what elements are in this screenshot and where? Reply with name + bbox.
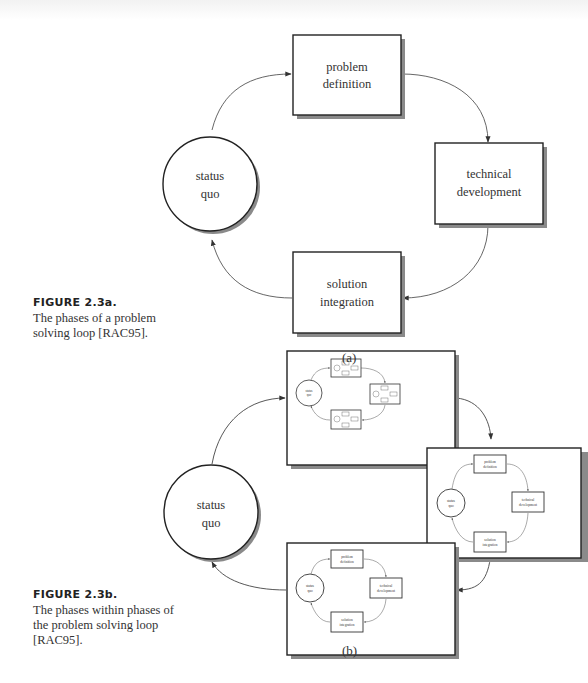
arrow-technical-to-solution bbox=[403, 225, 488, 298]
solution-integration-line1: solution bbox=[327, 277, 368, 291]
svg-text:problem: problem bbox=[484, 460, 496, 464]
svg-text:status: status bbox=[306, 584, 315, 588]
svg-text:problem: problem bbox=[341, 555, 353, 559]
arrow-problem-to-technical bbox=[402, 74, 488, 142]
svg-text:development: development bbox=[519, 503, 537, 507]
problem-definition-line2: definition bbox=[323, 77, 372, 91]
svg-text:definition: definition bbox=[340, 560, 354, 564]
svg-text:solution: solution bbox=[484, 538, 496, 542]
figure-diagrams: status quo problem definition technical … bbox=[0, 0, 588, 683]
solution-integration-line2: integration bbox=[320, 295, 375, 309]
status-quo-node-b: status quo bbox=[164, 465, 261, 562]
figure-b-sublabel: (b) bbox=[342, 643, 357, 659]
arrow-solution-to-status bbox=[212, 240, 292, 298]
figure-b-caption: FIGURE 2.3b. The phases within phases of… bbox=[33, 587, 183, 648]
technical-development-line1: technical bbox=[466, 167, 512, 181]
svg-text:solution: solution bbox=[341, 618, 353, 622]
status-quo-line1: status bbox=[196, 169, 225, 183]
technical-development-line2: development bbox=[457, 185, 522, 199]
figure-a-caption-text: The phases of a problem solving loop [RA… bbox=[33, 311, 156, 340]
figure-a-sublabel: (a) bbox=[342, 350, 356, 366]
figure-b-caption-label: FIGURE 2.3b. bbox=[33, 587, 183, 602]
status-quo-line2: quo bbox=[201, 187, 220, 201]
svg-text:technical: technical bbox=[522, 498, 535, 502]
problem-definition-node: problem definition bbox=[293, 35, 405, 119]
figure-a-caption-label: FIGURE 2.3a. bbox=[33, 295, 173, 310]
figure-a-caption: FIGURE 2.3a. The phases of a problem sol… bbox=[33, 295, 173, 341]
svg-text:development: development bbox=[377, 589, 395, 593]
arrow-status-to-problem bbox=[212, 74, 291, 130]
svg-text:integration: integration bbox=[339, 623, 354, 627]
svg-text:definition: definition bbox=[483, 465, 497, 469]
svg-text:quo: quo bbox=[307, 589, 313, 593]
status-quo-node: status quo bbox=[163, 137, 260, 234]
nested-box-solution-integration: status quo problem definition technical … bbox=[287, 543, 459, 659]
svg-text:status: status bbox=[447, 499, 456, 503]
status-quo-b-line2: quo bbox=[202, 516, 221, 530]
svg-text:technical: technical bbox=[380, 584, 393, 588]
figure-b: status quo status quo bbox=[164, 351, 588, 659]
svg-text:integration: integration bbox=[482, 543, 497, 547]
problem-definition-line1: problem bbox=[326, 60, 368, 74]
status-quo-b-line1: status bbox=[197, 498, 226, 512]
figure-a: status quo problem definition technical … bbox=[163, 35, 547, 337]
svg-text:quo: quo bbox=[448, 504, 454, 508]
solution-integration-node: solution integration bbox=[293, 252, 405, 337]
svg-text:quo: quo bbox=[307, 393, 312, 397]
arrow-b-box1-to-box2 bbox=[456, 398, 491, 439]
technical-development-node: technical development bbox=[435, 143, 547, 228]
figure-b-caption-text: The phases within phases of the problem … bbox=[33, 603, 174, 647]
arrow-b-box3-to-status bbox=[212, 562, 286, 590]
arrow-b-status-to-box1 bbox=[212, 398, 285, 464]
